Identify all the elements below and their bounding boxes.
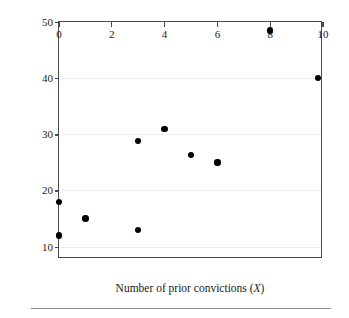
y-tick-label: 50 <box>42 17 53 28</box>
x-tick-mark <box>58 22 59 27</box>
x-tick-mark <box>322 22 323 27</box>
x-tick-label: 4 <box>162 29 168 40</box>
x-tick-label: 2 <box>109 29 115 40</box>
x-tick-label: 6 <box>215 29 221 40</box>
x-axis-title-tail: ) <box>261 282 265 294</box>
y-tick-label: 30 <box>42 129 53 140</box>
x-tick-mark <box>164 22 165 27</box>
y-tick-mark <box>55 190 60 191</box>
data-point <box>82 215 88 221</box>
y-tick-mark <box>55 134 60 135</box>
data-point <box>161 126 167 132</box>
x-tick-mark <box>111 22 112 27</box>
x-tick-label: 0 <box>56 29 62 40</box>
y-tick-mark <box>55 247 60 248</box>
data-point <box>56 232 62 238</box>
data-point <box>214 159 220 165</box>
data-point <box>135 138 141 144</box>
bottom-divider-rule <box>31 308 331 309</box>
plot-area: 1020304050 0246810 <box>58 21 322 258</box>
x-axis-title-variable: X <box>254 282 261 294</box>
data-point <box>188 152 194 158</box>
y-tick-label: 10 <box>42 241 53 252</box>
x-tick-mark <box>217 22 218 27</box>
y-tick-mark <box>55 78 60 79</box>
y-tick-label: 20 <box>42 185 53 196</box>
x-tick-mark <box>270 22 271 27</box>
gridline <box>59 247 321 248</box>
data-point <box>315 75 321 81</box>
x-axis-title: Number of prior convictions (X) <box>58 282 322 295</box>
gridline <box>59 190 321 191</box>
x-axis-title-text: Number of prior convictions ( <box>116 282 254 294</box>
data-point <box>135 227 141 233</box>
data-point <box>267 27 273 33</box>
gridline <box>59 78 321 79</box>
data-point <box>56 199 62 205</box>
scatter-plot-figure: 1020304050 0246810 Number of prior convi… <box>0 0 349 318</box>
y-tick-label: 40 <box>42 73 53 84</box>
x-tick-label: 10 <box>318 29 329 40</box>
gridline <box>59 134 321 135</box>
